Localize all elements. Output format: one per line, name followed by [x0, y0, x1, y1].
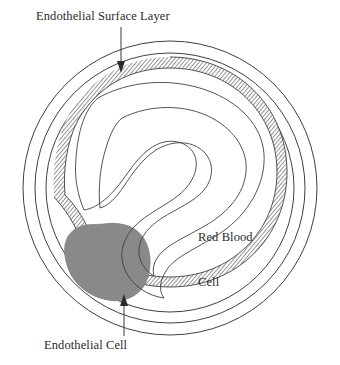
- label-red-blood-cell-line2: Cell: [198, 275, 253, 290]
- vessel-wall-circles: [23, 41, 317, 335]
- label-endothelial-cell: Endothelial Cell: [44, 338, 127, 353]
- outer-circle: [23, 41, 317, 335]
- endothelial-cell: [65, 223, 150, 300]
- label-endothelial-surface-layer: Endothelial Surface Layer: [36, 9, 170, 24]
- label-red-blood-cell: Red Blood Cell: [198, 200, 253, 305]
- capillary-cross-section-diagram: [0, 0, 340, 365]
- label-red-blood-cell-line1: Red Blood: [198, 230, 253, 245]
- endothelial-cell-body: [65, 223, 150, 300]
